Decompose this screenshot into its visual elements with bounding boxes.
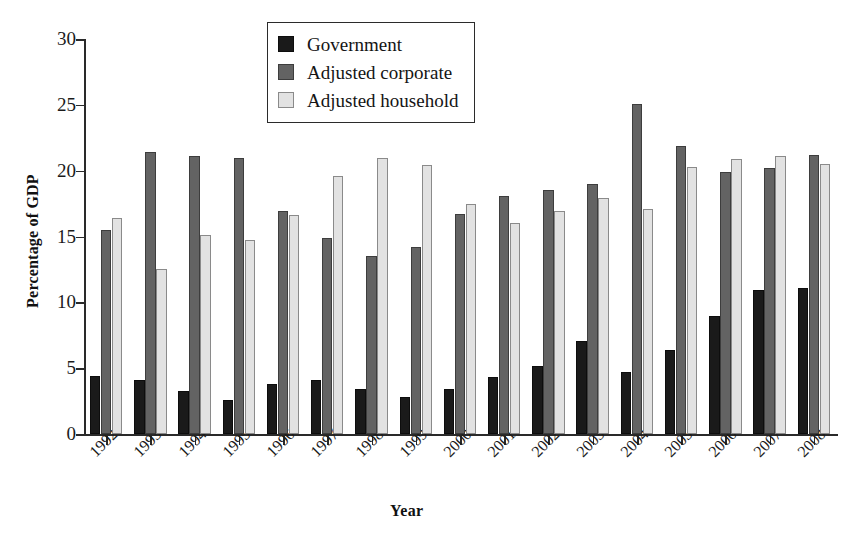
bar-1997-series-1[interactable]: [322, 238, 332, 434]
legend-label-adjusted-household: Adjusted household: [307, 91, 458, 110]
bar-1995-series-1[interactable]: [234, 158, 244, 435]
bar-group: [615, 39, 659, 434]
legend-item-adjusted-corporate[interactable]: Adjusted corporate: [278, 58, 458, 86]
y-axis-title: Percentage of GDP: [24, 111, 42, 371]
bar-1995-series-0[interactable]: [223, 400, 233, 434]
y-tick-mark: [76, 302, 84, 304]
bar-1999-series-0[interactable]: [400, 397, 410, 434]
bar-group: [748, 39, 792, 434]
y-tick-label: 20: [42, 161, 76, 180]
bar-1999-series-2[interactable]: [422, 165, 432, 434]
bar-2007-series-0[interactable]: [753, 290, 763, 434]
bar-group: [792, 39, 836, 434]
bar-2001-series-1[interactable]: [499, 196, 509, 434]
bar-2004-series-1[interactable]: [632, 104, 642, 434]
bar-1994-series-1[interactable]: [189, 156, 199, 434]
y-tick-mark: [76, 368, 84, 370]
bar-2005-series-1[interactable]: [676, 146, 686, 434]
legend-swatch-icon-adjusted-household: [278, 92, 294, 108]
y-tick-label: 0: [42, 424, 76, 443]
chart-container: Percentage of GDP Year 051015202530 1992…: [0, 0, 848, 541]
bar-1994-series-2[interactable]: [200, 235, 210, 434]
bar-2006-series-0[interactable]: [709, 316, 719, 435]
y-tick: 10: [36, 302, 76, 303]
y-tick-mark: [76, 105, 84, 107]
y-tick-mark: [76, 237, 84, 239]
bar-2008-series-2[interactable]: [820, 164, 830, 434]
bar-2008-series-1[interactable]: [809, 155, 819, 434]
bar-1996-series-2[interactable]: [289, 215, 299, 434]
y-tick-mark: [76, 434, 84, 436]
bar-2000-series-0[interactable]: [444, 389, 454, 434]
bar-1995-series-2[interactable]: [245, 240, 255, 434]
bar-2004-series-2[interactable]: [643, 209, 653, 434]
bar-1997-series-2[interactable]: [333, 176, 343, 434]
bar-2007-series-1[interactable]: [764, 168, 774, 434]
bar-1998-series-1[interactable]: [366, 256, 376, 434]
y-tick-label: 30: [42, 29, 76, 48]
x-axis-title: Year: [390, 502, 424, 520]
y-tick-label: 5: [42, 358, 76, 377]
bar-group: [84, 39, 128, 434]
bar-1993-series-1[interactable]: [145, 152, 155, 434]
bar-2003-series-2[interactable]: [598, 198, 608, 434]
y-tick: 20: [36, 171, 76, 172]
y-tick: 15: [36, 237, 76, 238]
legend-swatch-icon-government: [278, 36, 294, 52]
y-tick-label: 10: [42, 292, 76, 311]
legend-label-adjusted-corporate: Adjusted corporate: [307, 63, 452, 82]
y-tick: 0: [36, 434, 76, 435]
legend-item-government[interactable]: Government: [278, 30, 458, 58]
chart-legend: Government Adjusted corporate Adjusted h…: [267, 22, 475, 123]
bar-1993-series-2[interactable]: [156, 269, 166, 434]
y-tick-label: 15: [42, 227, 76, 246]
bar-1996-series-0[interactable]: [267, 384, 277, 434]
bar-1992-series-2[interactable]: [112, 218, 122, 434]
bar-1998-series-0[interactable]: [355, 389, 365, 434]
bar-1998-series-2[interactable]: [377, 158, 387, 435]
bar-1992-series-1[interactable]: [101, 230, 111, 434]
legend-swatch-icon-adjusted-corporate: [278, 64, 294, 80]
bar-group: [217, 39, 261, 434]
bar-group: [571, 39, 615, 434]
bar-2007-series-2[interactable]: [775, 156, 785, 434]
legend-label-government: Government: [307, 35, 402, 54]
y-tick: 5: [36, 368, 76, 369]
bar-2000-series-2[interactable]: [466, 204, 476, 434]
bar-group: [128, 39, 172, 434]
bar-2001-series-2[interactable]: [510, 223, 520, 434]
bar-2002-series-1[interactable]: [543, 190, 553, 434]
bar-2008-series-0[interactable]: [798, 288, 808, 434]
bar-group: [526, 39, 570, 434]
bar-2000-series-1[interactable]: [455, 214, 465, 434]
bar-group: [172, 39, 216, 434]
legend-item-adjusted-household[interactable]: Adjusted household: [278, 86, 458, 114]
bar-group: [659, 39, 703, 434]
bar-group: [703, 39, 747, 434]
bar-2005-series-2[interactable]: [687, 167, 697, 434]
bar-1994-series-0[interactable]: [178, 391, 188, 434]
bar-1997-series-0[interactable]: [311, 380, 321, 434]
bar-2002-series-0[interactable]: [532, 366, 542, 434]
bar-1992-series-0[interactable]: [90, 376, 100, 434]
bar-group: [482, 39, 526, 434]
bar-2003-series-1[interactable]: [587, 184, 597, 434]
bar-2002-series-2[interactable]: [554, 211, 564, 434]
bar-2001-series-0[interactable]: [488, 377, 498, 434]
y-tick-label: 25: [42, 95, 76, 114]
bar-1999-series-1[interactable]: [411, 247, 421, 434]
y-tick: 25: [36, 105, 76, 106]
bar-1993-series-0[interactable]: [134, 380, 144, 434]
y-tick: 30: [36, 39, 76, 40]
bar-2005-series-0[interactable]: [665, 350, 675, 434]
y-tick-mark: [76, 39, 84, 41]
bar-2003-series-0[interactable]: [576, 341, 586, 434]
bar-2006-series-2[interactable]: [731, 159, 741, 434]
bar-2004-series-0[interactable]: [621, 372, 631, 434]
bar-2006-series-1[interactable]: [720, 172, 730, 434]
bar-1996-series-1[interactable]: [278, 211, 288, 434]
y-tick-mark: [76, 171, 84, 173]
